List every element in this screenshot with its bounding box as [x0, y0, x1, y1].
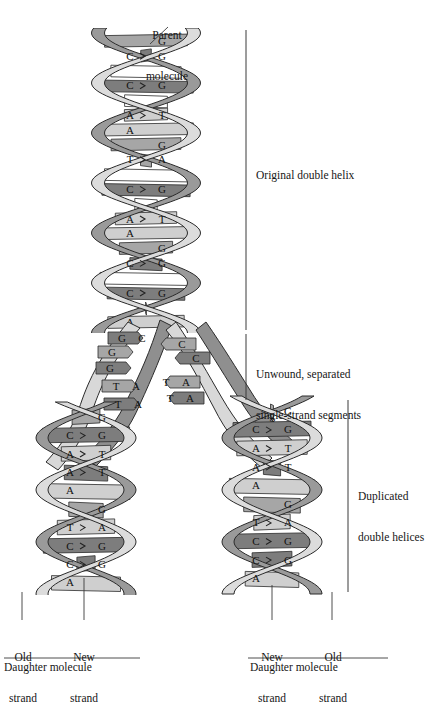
base-letter: A: [134, 398, 142, 410]
base-pair-rung: [98, 227, 194, 240]
base-letter: G: [118, 332, 126, 344]
base-pair-rung: [229, 478, 314, 494]
base-letter: G: [98, 411, 106, 423]
base-pair-rung: [99, 123, 194, 136]
base-letter: G: [98, 540, 106, 552]
base-letter: T: [99, 466, 106, 478]
parent-label-line1: Parent: [122, 29, 212, 43]
base-letter: A: [132, 380, 140, 392]
base-letter: T: [159, 109, 166, 121]
base-letter: T: [113, 380, 120, 392]
base-letter: G: [158, 139, 166, 151]
base-letter: G: [108, 346, 116, 358]
parent-label-line2: molecule: [122, 70, 212, 84]
base-letter: T: [99, 448, 106, 460]
base-letter: G: [284, 554, 292, 566]
new-strand-left-line2: strand: [60, 692, 108, 706]
base-letter: A: [98, 521, 106, 533]
base-letter: A: [66, 576, 74, 588]
new-strand-right-line2: strand: [248, 692, 296, 706]
base-letter: A: [252, 572, 260, 584]
base-letter: T: [167, 392, 174, 404]
duplicated-line2: double helices: [358, 531, 424, 545]
old-strand-left-line2: strand: [0, 692, 46, 706]
base-letter: C: [126, 257, 133, 269]
base-pair-rung: [228, 533, 316, 549]
base-letter: C: [126, 183, 133, 195]
base-letter: C: [252, 535, 259, 547]
duplicated-line1: Duplicated: [358, 490, 424, 504]
base-pair-rung: [42, 427, 129, 443]
base-letter: C: [192, 352, 199, 364]
base-letter: T: [285, 461, 292, 473]
base-letter: G: [98, 429, 106, 441]
base-letter: T: [115, 398, 122, 410]
base-letter: T: [163, 376, 170, 388]
caption-daughter-molecule-left: Daughter molecule: [4, 661, 92, 675]
base-letter: G: [98, 558, 106, 570]
label-unwound-segments: Unwound, separated single-strand segment…: [256, 341, 361, 449]
base-letter: G: [158, 257, 166, 269]
base-letter: C: [126, 287, 133, 299]
base-letter: C: [138, 332, 145, 344]
base-letter: G: [98, 503, 106, 515]
unwound-line1: Unwound, separated: [256, 368, 361, 382]
base-letter: C: [66, 540, 73, 552]
base-letter: G: [284, 498, 292, 510]
base-letter: A: [126, 124, 134, 136]
base-pair-rung: [42, 484, 130, 500]
base-pair-rung: [43, 537, 128, 553]
parent-molecule-label: Parent molecule: [122, 2, 212, 110]
base-letter: A: [158, 153, 166, 165]
label-original-double-helix: Original double helix: [256, 169, 354, 183]
base-letter: A: [186, 392, 194, 404]
caption-daughter-molecule-right: Daughter molecule: [250, 661, 338, 675]
base-letter: A: [66, 466, 74, 478]
base-letter: T: [127, 153, 134, 165]
base-letter: A: [66, 484, 74, 496]
base-letter: T: [253, 516, 260, 528]
base-letter: T: [159, 213, 166, 225]
base-letter: C: [178, 338, 185, 350]
base-letter: G: [158, 183, 166, 195]
old-strand-right-line2: strand: [310, 692, 356, 706]
left-daughter-helix: GCGATATAGTACGCGA: [36, 402, 136, 598]
base-letter: G: [284, 535, 292, 547]
base-letter: A: [66, 448, 74, 460]
base-pair-rung: [100, 272, 192, 285]
base-letter: A: [126, 213, 134, 225]
base-letter: A: [252, 461, 260, 473]
base-letter: A: [284, 516, 292, 528]
base-letter: G: [106, 362, 114, 374]
base-letter: C: [66, 429, 73, 441]
base-letter: G: [158, 242, 166, 254]
base-letter: A: [182, 376, 190, 388]
base-letter: C: [66, 558, 73, 570]
label-duplicated-double-helices: Duplicated double helices: [358, 463, 424, 571]
base-letter: G: [158, 287, 166, 299]
base-letter: A: [126, 227, 134, 239]
base-letter: T: [67, 521, 74, 533]
unwound-line2: single-strand segments: [256, 409, 361, 423]
base-letter: A: [126, 109, 134, 121]
base-letter: C: [252, 554, 259, 566]
base-letter: A: [252, 479, 260, 491]
